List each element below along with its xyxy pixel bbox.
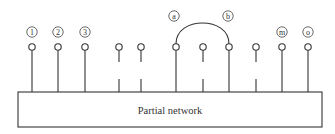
terminal-label: m <box>279 28 286 37</box>
terminal-label: a <box>172 12 176 21</box>
partial-network-diagram: 123abmo Partial network <box>0 0 335 134</box>
terminal-node <box>82 44 88 50</box>
terminal-label: b <box>226 12 230 21</box>
terminal-node <box>305 44 311 50</box>
terminal-unlabeled-8 <box>253 44 259 92</box>
terminal-m: m <box>277 27 287 92</box>
terminal-node <box>173 44 179 50</box>
link-arc-a-b <box>176 23 229 44</box>
terminal-node <box>253 44 259 50</box>
terminal-unlabeled-3 <box>116 44 122 92</box>
network-label: Partial network <box>138 105 203 116</box>
terminal-2: 2 <box>53 27 63 92</box>
terminal-label: o <box>306 28 310 37</box>
terminal-node <box>226 44 232 50</box>
terminal-label: 1 <box>30 28 34 37</box>
terminals: 123abmo <box>27 11 313 92</box>
terminal-label: 3 <box>83 28 87 37</box>
terminal-node <box>138 44 144 50</box>
terminal-node <box>200 44 206 50</box>
terminal-node <box>116 44 122 50</box>
terminal-label: 2 <box>56 28 60 37</box>
terminal-3: 3 <box>80 27 90 92</box>
terminal-unlabeled-6 <box>200 44 206 92</box>
terminal-o: o <box>303 27 313 92</box>
terminal-unlabeled-4 <box>138 44 144 92</box>
terminal-1: 1 <box>27 27 37 92</box>
terminal-node <box>29 44 35 50</box>
terminal-a: a <box>169 11 179 92</box>
terminal-b: b <box>223 11 233 92</box>
terminal-node <box>279 44 285 50</box>
terminal-node <box>55 44 61 50</box>
